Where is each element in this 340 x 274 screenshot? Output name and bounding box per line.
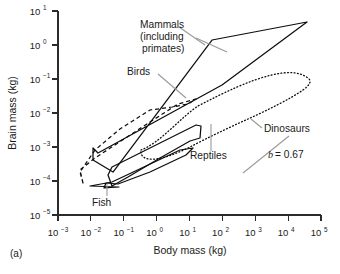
y-tick-label-exponent: 1 xyxy=(43,4,47,11)
series-label-mammals-line2: (including xyxy=(140,31,184,42)
y-tick-label-mantissa: 10 xyxy=(30,176,41,187)
y-tick-label-mantissa: 10 xyxy=(30,74,41,85)
x-tick-label-exponent: 0 xyxy=(160,226,164,233)
series-labels-group: Mammals (including primates) Birds Dinos… xyxy=(92,19,310,208)
panel-label: (a) xyxy=(10,248,22,259)
x-axis-title: Body mass (kg) xyxy=(154,244,227,256)
leader-line-dinosaurs xyxy=(251,119,262,128)
y-tick-label-mantissa: 10 xyxy=(30,40,41,51)
slope-label-symbol: b xyxy=(268,149,273,160)
x-tick-label-exponent: 5 xyxy=(324,226,328,233)
x-tick-label-exponent: −1 xyxy=(127,226,135,233)
x-tick-label-mantissa: 10 xyxy=(278,227,289,238)
series-label-reptiles: Reptiles xyxy=(190,150,227,161)
chart-canvas: 10 1 10 0 10 −1 10 −2 10 −3 10 −4 10 −5 xyxy=(0,0,340,274)
x-tick-label-exponent: 3 xyxy=(258,226,262,233)
slope-label-value: = 0.67 xyxy=(275,149,304,160)
series-label-birds: Birds xyxy=(127,66,150,77)
y-tick-label-exponent: −3 xyxy=(43,140,51,147)
y-tick-label-exponent: −4 xyxy=(43,174,51,181)
x-tick-label-exponent: 1 xyxy=(193,226,197,233)
y-axis-ticks xyxy=(52,11,58,215)
y-axis-tick-labels: 10 1 10 0 10 −1 10 −2 10 −3 10 −4 10 −5 xyxy=(30,4,51,221)
series-label-mammals-line3: primates) xyxy=(142,43,184,54)
x-tick-label-mantissa: 10 xyxy=(179,227,190,238)
x-tick-label-mantissa: 10 xyxy=(81,227,92,238)
x-tick-label-mantissa: 10 xyxy=(245,227,256,238)
x-axis-ticks xyxy=(58,215,321,221)
y-tick-label-mantissa: 10 xyxy=(30,108,41,119)
x-tick-label-mantissa: 10 xyxy=(311,227,322,238)
y-tick-label-mantissa: 10 xyxy=(30,142,41,153)
x-tick-label-exponent: −2 xyxy=(94,226,102,233)
x-tick-label-mantissa: 10 xyxy=(114,227,125,238)
x-tick-label-exponent: 2 xyxy=(225,226,229,233)
series-label-fish: Fish xyxy=(92,197,111,208)
x-tick-label-exponent: −3 xyxy=(61,226,69,233)
leader-lines-group xyxy=(107,27,289,196)
leader-line-birds xyxy=(158,74,186,98)
x-tick-label-mantissa: 10 xyxy=(48,227,59,238)
x-tick-label-mantissa: 10 xyxy=(212,227,223,238)
y-tick-label-exponent: −1 xyxy=(43,72,51,79)
data-series-group xyxy=(80,22,310,188)
y-tick-label-mantissa: 10 xyxy=(30,210,41,221)
y-tick-label-exponent: −2 xyxy=(43,106,51,113)
y-tick-label-mantissa: 10 xyxy=(30,6,41,17)
y-tick-label-exponent: −5 xyxy=(43,208,51,215)
series-label-mammals-line1: Mammals xyxy=(140,19,184,30)
x-tick-label-exponent: 4 xyxy=(291,226,295,233)
brain-mass-vs-body-mass-figure: 10 1 10 0 10 −1 10 −2 10 −3 10 −4 10 −5 xyxy=(0,0,340,274)
x-tick-label-mantissa: 10 xyxy=(146,227,157,238)
x-axis-tick-labels: 10 −3 10 −2 10 −1 10 0 10 1 10 2 10 3 10… xyxy=(48,226,328,239)
y-tick-label-exponent: 0 xyxy=(43,38,47,45)
series-label-dinosaurs: Dinosaurs xyxy=(264,123,310,134)
y-axis-title: Brain mass (kg) xyxy=(6,76,18,150)
